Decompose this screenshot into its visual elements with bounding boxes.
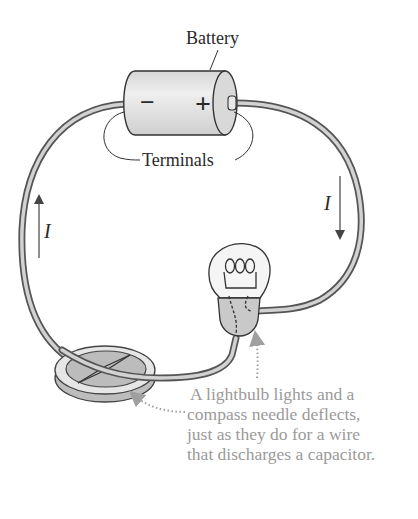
current-arrow-left [34, 194, 44, 258]
caption: A lightbulb lights and a compass needle … [186, 384, 375, 464]
circuit-diagram: − + Battery Terminals I I A lightbulb li… [0, 0, 418, 519]
terminals-label: Terminals [142, 150, 214, 170]
positive-sign: + [195, 88, 211, 119]
battery-leader-line [210, 50, 218, 70]
positive-terminal-nub [228, 96, 236, 110]
caption-line-4: that discharges a capacitor. [187, 444, 375, 464]
bulb-base [218, 298, 260, 336]
caption-line-1: A lightbulb lights and a [190, 384, 355, 404]
pointer-to-compass [135, 396, 185, 412]
terminals-leader-right [234, 112, 253, 160]
wire-left [22, 104, 125, 365]
current-label-right: I [323, 192, 332, 214]
pointer-to-bulb [256, 338, 258, 378]
battery: − + [124, 71, 237, 135]
caption-line-3: just as they do for a wire [186, 424, 360, 444]
battery-label: Battery [186, 28, 239, 48]
current-arrow-right [335, 176, 345, 240]
caption-line-2: compass needle deflects, [187, 404, 360, 424]
lightbulb [209, 244, 270, 336]
negative-sign: − [140, 88, 155, 117]
current-label-left: I [43, 220, 52, 242]
